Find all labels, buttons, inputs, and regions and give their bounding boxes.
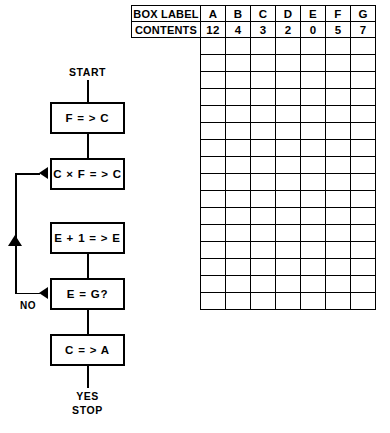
blank-cell[interactable] — [226, 293, 251, 310]
blank-cell[interactable] — [201, 140, 226, 157]
blank-cell[interactable] — [301, 123, 326, 140]
blank-cell[interactable] — [301, 72, 326, 89]
table-row-blank[interactable] — [132, 293, 376, 310]
blank-cell[interactable] — [326, 55, 351, 72]
blank-row-label-cell[interactable] — [132, 106, 201, 123]
blank-cell[interactable] — [276, 208, 301, 225]
blank-cell[interactable] — [351, 140, 376, 157]
blank-cell[interactable] — [301, 242, 326, 259]
blank-cell[interactable] — [301, 38, 326, 55]
blank-row-label-cell[interactable] — [132, 123, 201, 140]
table-row-blank[interactable] — [132, 174, 376, 191]
blank-cell[interactable] — [351, 106, 376, 123]
table-row-blank[interactable] — [132, 106, 376, 123]
blank-cell[interactable] — [201, 208, 226, 225]
blank-row-label-cell[interactable] — [132, 191, 201, 208]
blank-cell[interactable] — [301, 208, 326, 225]
blank-cell[interactable] — [251, 293, 276, 310]
blank-cell[interactable] — [326, 174, 351, 191]
table-row-blank[interactable] — [132, 225, 376, 242]
blank-cell[interactable] — [301, 106, 326, 123]
blank-row-label-cell[interactable] — [132, 157, 201, 174]
blank-cell[interactable] — [276, 174, 301, 191]
blank-cell[interactable] — [251, 276, 276, 293]
table-row-blank[interactable] — [132, 242, 376, 259]
blank-cell[interactable] — [326, 225, 351, 242]
blank-row-label-cell[interactable] — [132, 38, 201, 55]
blank-cell[interactable] — [301, 55, 326, 72]
blank-cell[interactable] — [301, 174, 326, 191]
blank-cell[interactable] — [251, 242, 276, 259]
blank-cell[interactable] — [351, 38, 376, 55]
blank-cell[interactable] — [251, 72, 276, 89]
blank-cell[interactable] — [201, 123, 226, 140]
blank-cell[interactable] — [201, 276, 226, 293]
blank-cell[interactable] — [301, 157, 326, 174]
blank-cell[interactable] — [201, 89, 226, 106]
blank-cell[interactable] — [276, 259, 301, 276]
blank-cell[interactable] — [301, 225, 326, 242]
blank-cell[interactable] — [326, 293, 351, 310]
blank-cell[interactable] — [201, 191, 226, 208]
blank-cell[interactable] — [251, 191, 276, 208]
blank-cell[interactable] — [351, 208, 376, 225]
blank-cell[interactable] — [301, 89, 326, 106]
blank-cell[interactable] — [301, 276, 326, 293]
blank-cell[interactable] — [201, 242, 226, 259]
blank-cell[interactable] — [201, 174, 226, 191]
blank-row-label-cell[interactable] — [132, 208, 201, 225]
blank-cell[interactable] — [226, 72, 251, 89]
blank-cell[interactable] — [351, 123, 376, 140]
blank-cell[interactable] — [276, 55, 301, 72]
blank-cell[interactable] — [251, 106, 276, 123]
blank-cell[interactable] — [326, 89, 351, 106]
blank-cell[interactable] — [276, 225, 301, 242]
blank-cell[interactable] — [301, 191, 326, 208]
blank-cell[interactable] — [226, 55, 251, 72]
blank-cell[interactable] — [326, 242, 351, 259]
blank-cell[interactable] — [201, 293, 226, 310]
blank-cell[interactable] — [226, 174, 251, 191]
blank-row-label-cell[interactable] — [132, 174, 201, 191]
blank-cell[interactable] — [326, 106, 351, 123]
blank-cell[interactable] — [326, 38, 351, 55]
blank-cell[interactable] — [226, 208, 251, 225]
blank-cell[interactable] — [201, 55, 226, 72]
blank-cell[interactable] — [326, 191, 351, 208]
blank-cell[interactable] — [276, 157, 301, 174]
blank-cell[interactable] — [276, 106, 301, 123]
blank-cell[interactable] — [351, 157, 376, 174]
blank-cell[interactable] — [226, 259, 251, 276]
blank-cell[interactable] — [251, 208, 276, 225]
blank-cell[interactable] — [351, 174, 376, 191]
table-row-blank[interactable] — [132, 191, 376, 208]
blank-cell[interactable] — [351, 276, 376, 293]
blank-row-label-cell[interactable] — [132, 225, 201, 242]
blank-cell[interactable] — [226, 89, 251, 106]
blank-cell[interactable] — [251, 157, 276, 174]
table-row-blank[interactable] — [132, 157, 376, 174]
blank-row-label-cell[interactable] — [132, 89, 201, 106]
blank-cell[interactable] — [226, 38, 251, 55]
blank-cell[interactable] — [251, 140, 276, 157]
table-row-blank[interactable] — [132, 140, 376, 157]
blank-row-label-cell[interactable] — [132, 259, 201, 276]
blank-cell[interactable] — [226, 157, 251, 174]
blank-cell[interactable] — [251, 174, 276, 191]
blank-cell[interactable] — [201, 38, 226, 55]
blank-cell[interactable] — [226, 225, 251, 242]
blank-cell[interactable] — [351, 259, 376, 276]
blank-cell[interactable] — [301, 140, 326, 157]
table-row-blank[interactable] — [132, 123, 376, 140]
table-row-blank[interactable] — [132, 72, 376, 89]
blank-cell[interactable] — [276, 38, 301, 55]
blank-cell[interactable] — [226, 123, 251, 140]
blank-cell[interactable] — [351, 89, 376, 106]
blank-row-label-cell[interactable] — [132, 293, 201, 310]
blank-cell[interactable] — [351, 225, 376, 242]
blank-cell[interactable] — [326, 157, 351, 174]
blank-cell[interactable] — [251, 225, 276, 242]
blank-cell[interactable] — [276, 293, 301, 310]
blank-cell[interactable] — [276, 89, 301, 106]
blank-cell[interactable] — [201, 259, 226, 276]
